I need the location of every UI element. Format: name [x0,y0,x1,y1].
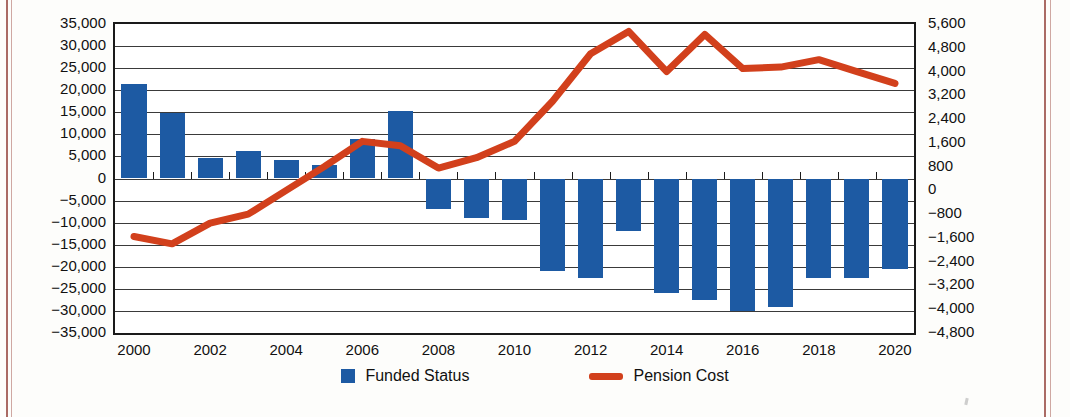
legend-square-swatch-icon [341,369,355,383]
x-axis-tick-label: 2012 [574,341,607,358]
line-series-pension-cost [115,24,914,333]
y-axis-right: 5,6004,8004,0003,2002,4001,6008000−800−1… [922,22,1032,335]
y-axis-right-tick-label: 4,000 [928,62,966,77]
y-axis-right-tick-label: 3,200 [928,86,966,101]
y-axis-left-tick-label: −30,000 [51,301,106,316]
y-axis-left-tick-label: −5,000 [60,191,106,206]
x-axis-tick-label: 2004 [270,341,303,358]
legend-label-pension-cost: Pension Cost [633,368,728,384]
combo-chart: 35,00030,00025,00020,00015,00010,0005,00… [0,0,1070,417]
legend-item-pension-cost[interactable]: Pension Cost [589,368,728,384]
y-axis-left-tick-label: −10,000 [51,213,106,228]
y-axis-left-tick-label: 25,000 [60,59,106,74]
y-axis-left-tick-label: 0 [98,169,106,184]
y-axis-right-tick-label: 5,600 [928,15,966,30]
x-axis-tick-label: 2018 [802,341,835,358]
x-axis-tick-label: 2000 [117,341,150,358]
y-axis-left-tick-label: 15,000 [60,103,106,118]
y-axis-left-tick-label: 10,000 [60,125,106,140]
y-axis-left-tick-label: −20,000 [51,257,106,272]
legend-line-swatch-icon [589,373,623,380]
y-axis-left: 35,00030,00025,00020,00015,00010,0005,00… [0,22,106,335]
legend-label-funded-status: Funded Status [365,368,469,384]
y-axis-left-tick-label: 5,000 [68,147,106,162]
pension-cost-line [134,31,895,243]
y-axis-right-tick-label: −800 [928,205,962,220]
y-axis-right-tick-label: 800 [928,157,953,172]
plot-area [113,22,916,335]
x-axis-labels: 2000200220042006200820102012201420162018… [113,341,916,367]
y-axis-left-tick-label: 30,000 [60,37,106,52]
x-axis-tick-label: 2002 [193,341,226,358]
x-axis-tick-label: 2008 [422,341,455,358]
x-axis-tick-label: 2006 [346,341,379,358]
x-axis-tick-label: 2014 [650,341,683,358]
y-axis-right-tick-label: −4,800 [928,324,974,339]
y-axis-right-tick-label: −3,200 [928,276,974,291]
x-axis-tick-label: 2010 [498,341,531,358]
x-axis-tick-label: 2016 [726,341,759,358]
y-axis-right-tick-label: −4,000 [928,300,974,315]
y-axis-right-tick-label: −2,400 [928,252,974,267]
y-axis-left-tick-label: −35,000 [51,324,106,339]
y-axis-right-tick-label: 1,600 [928,133,966,148]
y-axis-left-tick-label: 35,000 [60,15,106,30]
y-axis-left-tick-label: 20,000 [60,81,106,96]
legend-item-funded-status[interactable]: Funded Status [341,368,469,384]
y-axis-left-tick-label: −25,000 [51,279,106,294]
chart-legend: Funded Status Pension Cost [0,368,1070,384]
y-axis-right-tick-label: 0 [928,181,936,196]
x-axis-tick-label: 2020 [878,341,911,358]
y-axis-right-tick-label: 2,400 [928,110,966,125]
y-axis-left-tick-label: −15,000 [51,235,106,250]
y-axis-right-tick-label: 4,800 [928,38,966,53]
y-axis-right-tick-label: −1,600 [928,228,974,243]
